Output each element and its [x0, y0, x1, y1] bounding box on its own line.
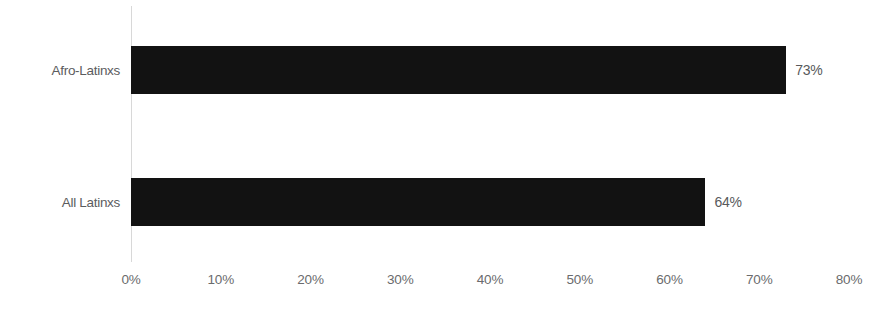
tick-label-30pct: 30%: [387, 272, 413, 287]
category-label-afro-latinxs: Afro-Latinxs: [11, 63, 131, 78]
tick-label-0pct: 0%: [121, 272, 140, 287]
tick-label-80pct: 80%: [836, 272, 862, 287]
bar-value-label-all-latinxs: 64%: [714, 194, 741, 210]
tick-label-70pct: 70%: [746, 272, 772, 287]
tick-label-10pct: 10%: [208, 272, 234, 287]
category-label-group: All Latinxs: [0, 178, 131, 226]
category-label-group: Afro-Latinxs: [0, 46, 131, 94]
tick-label-50pct: 50%: [567, 272, 593, 287]
category-label-all-latinxs: All Latinxs: [11, 195, 131, 210]
plot-area: Afro-Latinxs 73% All Latinxs 64% 0%10%20…: [0, 0, 891, 318]
bar-value-label-afro-latinxs: 73%: [795, 62, 822, 78]
bar-all-latinxs: [131, 178, 705, 226]
bar-afro-latinxs: [131, 46, 786, 94]
tick-label-40pct: 40%: [477, 272, 503, 287]
bar-chart: Afro-Latinxs 73% All Latinxs 64% 0%10%20…: [0, 0, 891, 318]
tick-label-60pct: 60%: [656, 272, 682, 287]
tick-label-20pct: 20%: [297, 272, 323, 287]
